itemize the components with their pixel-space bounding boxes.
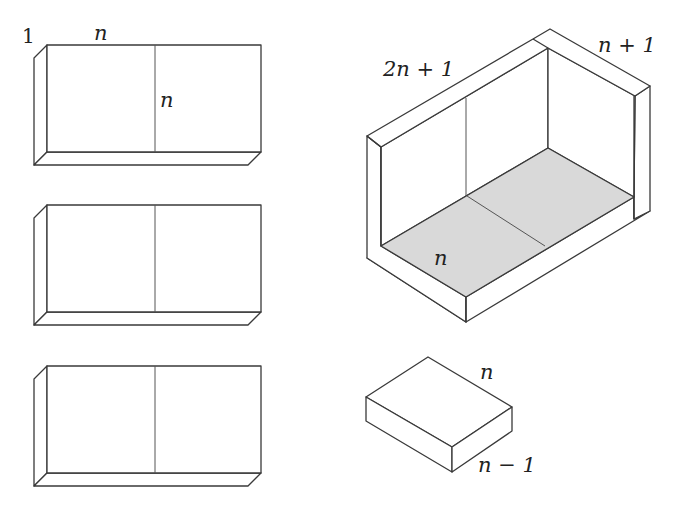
small-block: n n − 1	[366, 357, 536, 477]
box-long-side-label: 2n + 1	[382, 57, 454, 81]
slab-1-height-label: n	[160, 88, 174, 112]
slab-1-thickness-label: 1	[22, 24, 35, 48]
diagram-canvas: 1 n n	[0, 0, 689, 514]
slab-1-side-face	[34, 45, 47, 165]
slab-3-front-face	[47, 366, 261, 473]
slab-1-front-face	[47, 45, 261, 152]
block-height-label: n − 1	[478, 453, 536, 477]
box-floor-label: n	[434, 246, 448, 270]
slab-3	[34, 366, 261, 486]
box-short-side-label: n + 1	[598, 33, 656, 57]
slab-1-width-label: n	[94, 21, 108, 45]
box-right-wall-outer-face	[634, 86, 650, 219]
block-top-label: n	[480, 360, 494, 384]
slab-2	[34, 205, 261, 325]
slab-1-bottom-face	[34, 152, 261, 165]
slab-1: 1 n n	[22, 21, 261, 165]
box-assembly: 2n + 1 n + 1 n	[367, 29, 656, 322]
slab-2-bottom-face	[34, 312, 261, 325]
slab-2-side-face	[34, 205, 47, 325]
slab-3-side-face	[34, 366, 47, 486]
slab-3-bottom-face	[34, 473, 261, 486]
slab-2-front-face	[47, 205, 261, 312]
